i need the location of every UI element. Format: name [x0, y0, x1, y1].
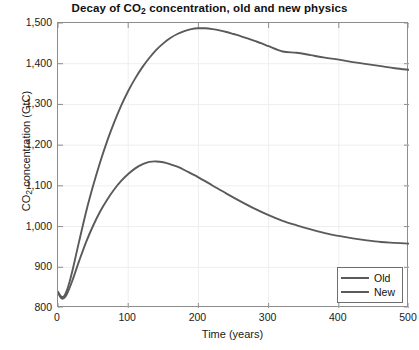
x-tick-label: 200 [167, 311, 227, 323]
chart-legend[interactable]: OldNew [337, 267, 403, 303]
y-axis-label-prefix: CO [20, 195, 32, 212]
x-tick-label: 400 [308, 311, 368, 323]
legend-label: Old [374, 273, 390, 284]
gridlines [58, 23, 409, 308]
x-tick-label: 300 [238, 311, 298, 323]
chart-title-prefix: Decay of CO [72, 2, 141, 14]
x-tick-label: 100 [97, 311, 157, 323]
y-axis-label-suffix: concentration (GtC) [20, 91, 32, 190]
chart-title-suffix: concentration, old and new physics [146, 2, 348, 14]
series-lines [58, 28, 409, 298]
chart-title-subscript: 2 [141, 6, 146, 16]
legend-label: New [374, 287, 395, 298]
y-axis-label: CO2 concentration (GtC) [20, 41, 32, 261]
legend-item-old[interactable]: Old [341, 271, 398, 285]
legend-line-swatch [341, 277, 369, 279]
y-tick-label: 900 [6, 260, 52, 272]
axis-tick-marks [58, 23, 409, 308]
x-tick-label: 0 [27, 311, 87, 323]
x-axis-label: Time (years) [57, 328, 408, 340]
x-tick-label: 500 [378, 311, 419, 323]
chart-title: Decay of CO2 concentration, old and new … [0, 2, 419, 14]
y-axis-label-subscript: 2 [24, 190, 34, 195]
x-axis-tick-labels: 0100200300400500 [0, 311, 419, 329]
y-tick-label: 1,500 [6, 16, 52, 28]
plot-svg [58, 23, 409, 308]
chart-figure: Decay of CO2 concentration, old and new … [0, 0, 419, 350]
plot-area [57, 22, 408, 307]
series-line-old [58, 28, 409, 297]
legend-line-swatch [341, 291, 369, 293]
legend-item-new[interactable]: New [341, 285, 398, 299]
